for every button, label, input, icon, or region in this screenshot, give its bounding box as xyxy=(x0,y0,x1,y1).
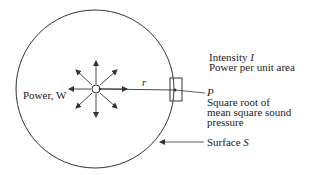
radius-line xyxy=(100,89,175,90)
surface-label: Surface S xyxy=(207,137,249,148)
radius-label: r xyxy=(142,77,146,88)
sound-radiation-diagram xyxy=(0,0,311,175)
source-label: Power, W xyxy=(23,90,66,101)
surface-symbol: S xyxy=(243,136,249,148)
pressure-desc-line3: pressure xyxy=(207,117,244,128)
pressure-leader xyxy=(175,90,205,93)
surface-text: Surface xyxy=(207,136,241,148)
intensity-description: Power per unit area xyxy=(209,62,295,73)
